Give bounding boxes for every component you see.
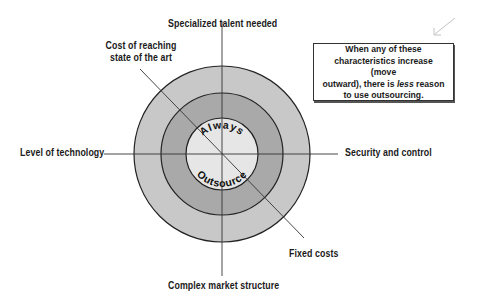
note-text: When any of these characteristics increa… [321,43,446,101]
label-specialized-talent: Specialized talent needed [168,18,277,29]
label-fixed-costs: Fixed costs [289,248,338,259]
label-security-and-control: Security and control [345,147,432,158]
checkmark-scribble-icon [434,18,455,35]
note-line2: characteristics increase (move [321,55,446,78]
note-line4: to use outsourcing. [321,89,446,101]
label-cost-line1: Cost of reaching [93,40,190,52]
label-complex-market-structure: Complex market structure [168,280,279,291]
note-line1: When any of these [321,43,446,55]
explanation-note-box: When any of these characteristics increa… [313,43,454,101]
label-cost-line2: state of the art [93,52,190,64]
note-line3: outward), there is less reason [321,78,446,90]
note-emphasis-less: less [397,78,414,89]
label-cost-state-of-art: Cost of reaching state of the art [93,40,190,64]
label-level-of-technology: Level of technology [20,147,104,158]
